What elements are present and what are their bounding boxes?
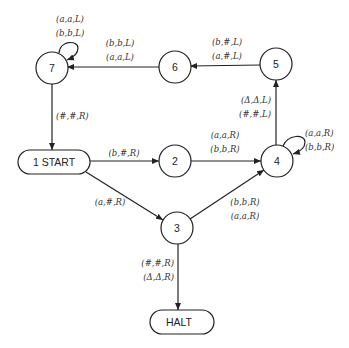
state-3[interactable]: 3 — [161, 212, 193, 244]
edge-label-4-5-a: (Δ,Δ,L) — [241, 95, 271, 105]
edge-label-6-7-a: (b,b,L) — [106, 38, 135, 48]
edge-label-4-4-a: (a,a,R) — [305, 128, 334, 138]
edge-label-7-7-a: (a,a,L) — [56, 14, 84, 24]
state-5-label: 5 — [273, 58, 279, 70]
edge-label-2-4-b: (b,b,R) — [210, 144, 239, 154]
state-start[interactable]: 1 START — [18, 150, 90, 174]
edge-label-3-halt-b: (Δ,Δ,R) — [143, 272, 174, 282]
state-halt[interactable]: HALT — [150, 310, 214, 334]
edge-label-7-7-b: (b,b,L) — [56, 28, 85, 38]
edge-5-6 — [190, 65, 261, 66]
state-halt-label: HALT — [166, 316, 193, 328]
edge-label-2-4-a: (a,a,R) — [211, 130, 240, 140]
state-7-label: 7 — [49, 62, 55, 74]
edge-label-3-halt-a: (#,#,R) — [141, 258, 174, 268]
edge-label-3-4-a: (b,b,R) — [230, 197, 259, 207]
edge-label-4-5-b: (#,#,L) — [239, 109, 271, 119]
state-start-label: 1 START — [33, 156, 76, 168]
state-5[interactable]: 5 — [260, 48, 292, 80]
state-2-label: 2 — [172, 155, 178, 167]
edge-label-4-4-b: (b,b,R) — [305, 142, 334, 152]
state-6[interactable]: 6 — [159, 51, 191, 83]
edge-label-7-start: (#,#,R) — [56, 111, 89, 121]
edge-label-5-6-a: (b,#,L) — [212, 37, 242, 47]
state-diagram: 7 6 5 1 START 2 4 3 HALT — [0, 0, 349, 348]
state-6-label: 6 — [172, 61, 178, 73]
edge-label-6-7-b: (a,a,L) — [106, 52, 134, 62]
edge-start-3 — [86, 172, 163, 220]
state-3-label: 3 — [174, 222, 180, 234]
edge-label-3-4-b: (a,a,R) — [231, 211, 260, 221]
state-4-label: 4 — [274, 155, 280, 167]
nodes: 7 6 5 1 START 2 4 3 HALT — [18, 48, 293, 334]
edge-label-start-2: (b,#,R) — [109, 148, 140, 158]
edge-label-5-6-b: (a,#,L) — [212, 51, 242, 61]
state-7[interactable]: 7 — [36, 52, 68, 84]
state-2[interactable]: 2 — [159, 145, 191, 177]
edge-label-start-3: (a,#,R) — [95, 197, 126, 207]
edge-labels: (a,a,L) (b,b,L) (b,b,L) (a,a,L) (b,#,L) … — [56, 14, 335, 282]
state-4[interactable]: 4 — [261, 145, 293, 177]
